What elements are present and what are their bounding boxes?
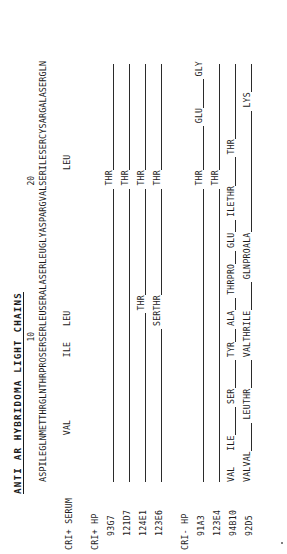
substitution-residue: THR (152, 295, 162, 310)
consensus-residue: GLN (38, 435, 48, 451)
clone-row: 92D5VALVALLEUTHRVALTHRILEGLNPROALALYS (242, 0, 256, 554)
substitution-residue: VAL (242, 342, 252, 357)
group-label: CRI+ HP (90, 513, 100, 550)
group-header-row: CRI+ HP (88, 0, 102, 554)
alignment-line-segment (219, 189, 220, 482)
consensus-residue: ILE (38, 451, 48, 467)
clone-label: 123E4 (212, 510, 222, 536)
alignment-line-segment (145, 189, 146, 295)
consensus-residue: LEU (38, 310, 48, 326)
substitution-residue: THR (136, 170, 146, 185)
substitution-residue: THR (210, 170, 220, 185)
substitution-residue: VAL (62, 420, 72, 435)
alignment-line-segment (161, 189, 162, 295)
alignment-line-segment (235, 360, 236, 388)
clone-row: 94B10VALILESERTYRALATHRPROGLUILETHRTHR (226, 0, 240, 554)
clone-row: 91A3THRGLUGLY (194, 0, 208, 554)
clone-row: 124E1THRTHR (136, 0, 150, 554)
consensus-residue: VAL (38, 186, 48, 202)
substitution-residue: LYS (242, 92, 252, 107)
substitution-residue: LEU (62, 155, 72, 170)
substitution-residue: ALA (242, 233, 252, 248)
substitution-residue: VAL (226, 467, 236, 482)
clone-row: 123E4THR (210, 0, 224, 554)
alignment-line-segment (235, 407, 236, 435)
alignment-line-segment (251, 423, 252, 451)
substitution-residue: THR (136, 295, 146, 310)
consensus-residue: ALA (38, 92, 48, 108)
consensus-residue: THR (38, 404, 48, 420)
alignment-line-segment (161, 64, 162, 170)
alignment-line-segment (203, 189, 204, 482)
consensus-residue: SER (38, 342, 48, 358)
substitution-residue: SER (226, 389, 236, 404)
alignment-line-segment (235, 220, 236, 233)
clone-label: 93G7 (106, 515, 116, 536)
substitution-residue: PRO (226, 264, 236, 279)
substitution-residue: VAL (242, 467, 252, 482)
consensus-residue: ARG (38, 201, 48, 217)
consensus-residue: ARG (38, 108, 48, 124)
clone-row: 93G7THR (104, 0, 118, 554)
substitution-residue: GLU (226, 233, 236, 248)
substitution-residue: ALA (226, 311, 236, 326)
clone-label: 124E1 (138, 510, 148, 536)
substitution-residue: GLU (194, 108, 204, 123)
substitution-residue: THR (194, 170, 204, 185)
substitution-residue: THR (226, 186, 236, 201)
substitution-residue: ILE (62, 342, 72, 357)
page-marker-dot (281, 542, 283, 544)
consensus-residue: GLN (38, 388, 48, 404)
consensus-residue: CYS (38, 123, 48, 139)
figure-canvas: ANTI AR HYBRIDOMA LIGHT CHAINS 1020 ASPI… (0, 0, 287, 554)
consensus-residue: MET (38, 420, 48, 436)
group-label: CRI+ SERUM (64, 498, 74, 550)
substitution-residue: VAL (242, 451, 252, 466)
substitution-residue: THR (242, 326, 252, 341)
group-header-row: CRI+ SERUMVALILELEULEU (62, 0, 76, 554)
consensus-residue: ALA (38, 279, 48, 295)
position-marker: 10 (27, 332, 36, 342)
alignment-line-segment (113, 189, 114, 482)
alignment-line-segment (251, 111, 252, 233)
consensus-residue: LEU (38, 248, 48, 264)
substitution-residue: ILE (226, 435, 236, 450)
rotated-figure-container: ANTI AR HYBRIDOMA LIGHT CHAINS 1020 ASPI… (0, 0, 287, 554)
substitution-residue: GLN (242, 264, 252, 279)
clone-label: 92D5 (244, 515, 254, 536)
substitution-residue: THR (104, 170, 114, 185)
page-title: ANTI AR HYBRIDOMA LIGHT CHAINS (12, 292, 23, 494)
substitution-residue: TYR (226, 342, 236, 357)
clone-label: 123E6 (154, 510, 164, 536)
alignment-line-segment (203, 79, 204, 107)
alignment-line-segment (235, 251, 236, 264)
consensus-residue: SER (38, 139, 48, 155)
consensus-residue: GLY (38, 233, 48, 249)
substitution-residue: GLY (194, 61, 204, 76)
clone-label: 121D7 (122, 510, 132, 536)
substitution-residue: LEU (242, 404, 252, 419)
alignment-line-segment (203, 126, 204, 170)
substitution-residue: THR (152, 170, 162, 185)
alignment-line-segment (235, 298, 236, 311)
clone-label: 91A3 (196, 515, 206, 536)
consensus-residue: THR (38, 373, 48, 389)
alignment-line-segment (251, 64, 252, 92)
alignment-line-segment (113, 64, 114, 170)
substitution-residue: THR (226, 279, 236, 294)
substitution-residue: ILE (242, 311, 252, 326)
consensus-residue: ASP (38, 217, 48, 233)
consensus-residue: ASP (38, 466, 48, 482)
consensus-residue: PRO (38, 357, 48, 373)
alignment-line-segment (145, 313, 146, 482)
consensus-residue: GLN (38, 61, 48, 77)
alignment-line-segment (235, 64, 236, 139)
group-header-row: CRI- HP (178, 0, 192, 554)
clone-label: 94B10 (228, 510, 238, 536)
clone-row: 123E6SERTHRTHR (152, 0, 166, 554)
group-label: CRI- HP (180, 513, 190, 550)
substitution-residue: LEU (62, 311, 72, 326)
consensus-residue: ILE (38, 155, 48, 171)
substitution-residue: PRO (242, 248, 252, 263)
alignment-line-segment (129, 189, 130, 482)
